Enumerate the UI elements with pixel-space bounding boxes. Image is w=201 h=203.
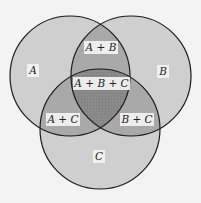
svg-text:A: A xyxy=(28,64,37,76)
label-c: C xyxy=(93,150,105,163)
label-b: B xyxy=(157,65,169,78)
svg-text:A + B + C: A + B + C xyxy=(73,77,128,89)
svg-text:B: B xyxy=(158,65,167,77)
label-ac: A + C xyxy=(46,113,80,126)
label-a: A xyxy=(27,64,39,77)
svg-text:A + B: A + B xyxy=(85,41,117,53)
svg-text:A + C: A + C xyxy=(46,113,78,125)
svg-text:C: C xyxy=(95,150,103,162)
venn-diagram: A B C A + B A + B + C A + C B + C xyxy=(0,0,201,203)
label-bc: B + C xyxy=(120,113,154,126)
label-ab: A + B xyxy=(84,41,118,54)
venn-svg: A B C A + B A + B + C A + C B + C xyxy=(0,0,201,203)
label-abc: A + B + C xyxy=(73,77,130,90)
svg-text:B + C: B + C xyxy=(120,113,152,125)
